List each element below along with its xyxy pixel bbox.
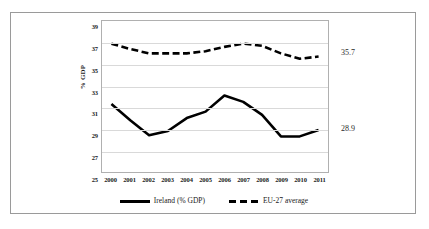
y-tick-label: 35 [74,67,98,74]
y-tick-label: 25 [74,177,98,184]
chart-legend: Ireland (% GDP)EU-27 average [11,193,417,209]
legend-label: EU-27 average [263,197,308,205]
y-tick-label: 39 [74,24,98,31]
legend-label: Ireland (% GDP) [154,197,205,205]
series-line-2 [111,44,318,59]
legend-item-2[interactable]: EU-27 average [229,197,308,206]
y-tick-label: 31 [74,111,98,118]
data-label-ireland: 28.9 [341,125,355,133]
y-tick-label: 29 [74,133,98,140]
y-tick-label: 33 [74,89,98,96]
gridline [102,43,328,44]
legend-swatch-dashed-icon [229,197,259,206]
data-label-eu-27: 35.7 [341,49,355,57]
legend-item-1[interactable]: Ireland (% GDP) [120,197,205,206]
gridline [102,130,328,131]
y-tick-label: 27 [74,155,98,162]
gridline [102,65,328,66]
y-axis-ticks: 3937353331292725 [71,20,98,173]
gridline [102,152,328,153]
y-tick-label: 37 [74,46,98,53]
x-tick-label: 2011 [305,177,335,184]
x-axis-ticks: 2000200120022003200420052006200720082009… [101,177,329,189]
figure-frame: % GDP 3937353331292725 20002001200220032… [10,12,416,214]
gridline [102,108,328,109]
legend-swatch-solid-icon [120,197,150,206]
line-chart: % GDP 3937353331292725 20002001200220032… [11,13,417,215]
gridline [102,87,328,88]
plot-area [101,20,329,173]
